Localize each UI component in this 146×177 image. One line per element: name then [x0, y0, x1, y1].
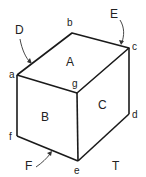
- face-labels: A B C: [41, 55, 107, 124]
- vertex-label-g: g: [72, 78, 78, 89]
- arrow-d-icon: [20, 39, 30, 62]
- pointer-label-e: E: [110, 7, 118, 21]
- vertex-label-b: b: [67, 17, 73, 28]
- box-edges: [17, 33, 129, 161]
- box-diagram: a b c d e f g A B C D E F T: [0, 0, 146, 177]
- edge-e-d: [78, 114, 129, 161]
- vertex-labels: a b c d e f g: [9, 17, 138, 176]
- edge-g-e: [77, 93, 78, 161]
- arrow-f-icon: [36, 154, 50, 167]
- vertex-label-c: c: [132, 41, 137, 52]
- face-label-a: A: [66, 55, 74, 69]
- pointer-label-d: D: [15, 23, 24, 37]
- label-t: T: [112, 159, 120, 173]
- vertex-label-e: e: [74, 165, 80, 176]
- vertex-label-d: d: [132, 109, 138, 120]
- vertex-label-f: f: [9, 131, 12, 142]
- face-label-b: B: [41, 110, 49, 124]
- arrow-e-icon: [120, 20, 124, 42]
- face-label-c: C: [98, 98, 107, 112]
- pointer-label-f: F: [25, 159, 32, 173]
- arrowhead-e-icon: [119, 40, 124, 45]
- vertex-label-a: a: [9, 69, 15, 80]
